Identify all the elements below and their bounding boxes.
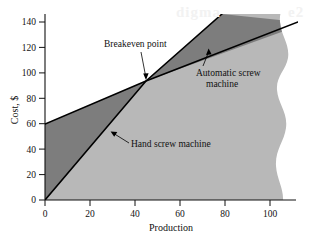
y-tick-label: 100 <box>22 68 37 78</box>
y-tick-label: 80 <box>27 94 37 104</box>
y-tick-label: 20 <box>27 170 37 180</box>
x-axis-title: Production <box>149 222 193 233</box>
x-tick-label: 60 <box>175 209 185 219</box>
shaded-regions <box>45 12 298 200</box>
automatic-label-line-1: Automatic screw <box>196 68 261 78</box>
x-axis-tick-labels: 0 20 40 60 80 100 <box>43 209 278 219</box>
y-tick-label: 120 <box>22 43 37 53</box>
y-tick-label: 0 <box>31 195 36 205</box>
x-tick-label: 20 <box>85 209 95 219</box>
under-curve-fill-region <box>45 12 298 200</box>
y-axis-tick-labels: 0 20 40 60 80 100 120 140 <box>22 17 37 205</box>
x-tick-label: 100 <box>263 209 278 219</box>
y-axis-ticks <box>39 22 45 200</box>
y-tick-label: 40 <box>27 145 37 155</box>
breakeven-label: Breakeven point <box>104 39 167 49</box>
breakeven-chart-figure: digma e2 <box>0 0 312 237</box>
hand-label: Hand screw machine <box>131 139 211 149</box>
x-tick-label: 0 <box>43 209 48 219</box>
x-axis-ticks <box>45 200 270 206</box>
y-tick-label: 140 <box>22 17 37 27</box>
y-tick-label: 60 <box>27 119 37 129</box>
x-tick-label: 80 <box>220 209 230 219</box>
y-axis-title: Cost, $ <box>9 96 20 124</box>
automatic-label-line-2: machine <box>206 79 238 89</box>
x-tick-label: 40 <box>130 209 140 219</box>
chart-svg: 0 20 40 60 80 100 120 140 0 20 40 60 80 … <box>0 0 312 237</box>
